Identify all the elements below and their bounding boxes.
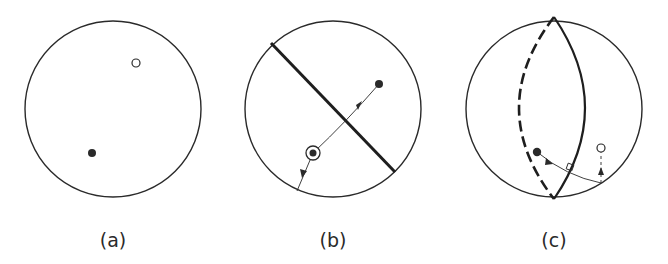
ringed-point-inner <box>310 150 317 157</box>
panel-c: (c) <box>466 17 642 251</box>
great-circle-solid-arc <box>554 17 585 199</box>
sphere-outline <box>25 21 201 197</box>
panel-label-c: (c) <box>541 229 566 251</box>
filled-point <box>533 148 541 156</box>
great-circle-dashed-arc <box>519 17 554 199</box>
figure-canvas: (a) (b) (c) <box>0 0 668 264</box>
filled-point <box>375 80 383 88</box>
panel-label-a: (a) <box>100 229 126 251</box>
panel-b: (b) <box>245 21 421 251</box>
open-point <box>132 59 140 67</box>
perpendicular-path <box>537 152 601 183</box>
panel-a: (a) <box>25 21 201 251</box>
sphere-outline <box>466 21 642 197</box>
vertical-arrowhead <box>598 167 604 175</box>
reflection-arrow <box>313 84 379 153</box>
filled-point <box>88 149 96 157</box>
panel-label-b: (b) <box>320 229 347 251</box>
path-arrowhead <box>545 158 553 165</box>
open-point <box>597 144 605 152</box>
mirror-line <box>271 43 395 172</box>
